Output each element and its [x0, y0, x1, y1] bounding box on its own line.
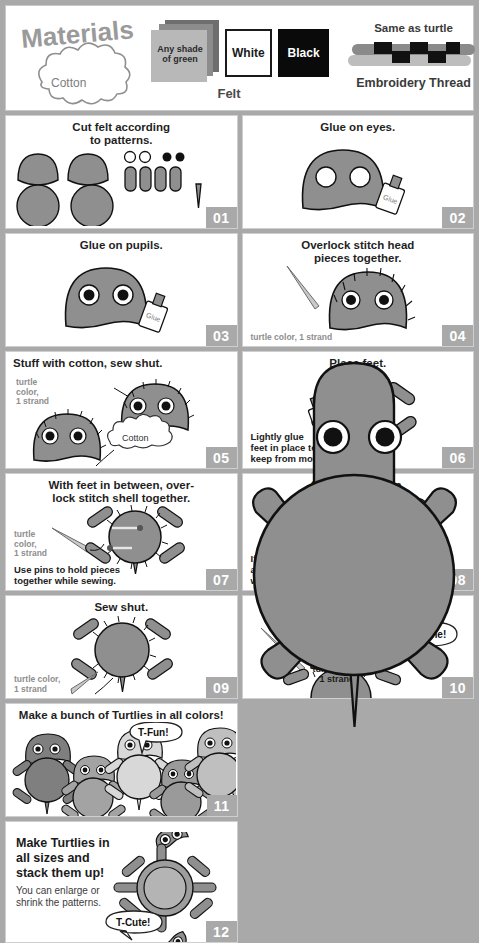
step-04-badge: 04 — [442, 325, 473, 346]
thread-group: Same as turtle Embroidery Thread — [346, 22, 479, 90]
step-panel-02: Glue on eyes. Glue 02 — [242, 115, 475, 229]
materials-title-text: Materials — [20, 14, 135, 54]
green-felt-swatches: Any shade of green — [149, 20, 221, 82]
thread-caption: Embroidery Thread — [346, 76, 479, 90]
step-01-title: Cut felt according to patterns. — [6, 116, 237, 147]
step-panel-04: Overlock stitch head pieces together. tu… — [242, 233, 475, 347]
step-01-pattern-pieces — [14, 146, 229, 226]
step-09-badge: 09 — [206, 677, 237, 698]
step-07-title: With feet in between, over- lock stitch … — [6, 474, 237, 505]
cotton-label: Cotton — [51, 76, 86, 90]
step-04-note: turtle color, 1 strand — [251, 333, 333, 343]
embroidery-thread-icon — [346, 38, 479, 74]
step-12-bubble-text: T-Cute! — [116, 917, 150, 928]
step-panel-12: Make Turtlies in all sizes and stack the… — [5, 821, 238, 943]
step-09-shell-art — [58, 616, 208, 696]
step-05-badge: 05 — [206, 447, 237, 468]
step-02-badge: 02 — [442, 207, 473, 228]
step-03-title: Glue on pupils. — [6, 234, 237, 252]
step-11-title: Make a bunch of Turtlies in all colors! — [6, 704, 237, 722]
step-05-title: Stuff with cotton, sew shut. — [6, 352, 237, 370]
step-01-badge: 01 — [206, 207, 237, 228]
cotton-cloud-icon — [39, 43, 130, 104]
step-09-note: turtle color, 1 strand — [14, 675, 60, 694]
felt-group: Any shade of green White Black Felt — [149, 20, 329, 101]
step-02-title: Glue on eyes. — [243, 116, 474, 134]
step-11-turtles-art: T-Fun! — [10, 722, 236, 816]
black-felt-swatch: Black — [278, 29, 329, 77]
step-panel-09: Sew shut. turtle color, 1 strand 09 — [5, 595, 238, 699]
thread-top-note: Same as turtle — [346, 22, 479, 34]
step-panel-01: Cut felt according to patterns. 01 — [5, 115, 238, 229]
white-felt-swatch: White — [225, 29, 272, 77]
step-12-badge: 12 — [206, 921, 237, 942]
green-felt-label: Any shade of green — [153, 44, 207, 64]
steps-row-2: Glue on pupils. Glue 03 Overlock stitch … — [5, 233, 474, 347]
step-05-heads-art: Cotton — [14, 372, 234, 468]
step-panel-07: With feet in between, over- lock stitch … — [5, 473, 238, 591]
materials-title-art: Materials Cotton — [20, 14, 150, 106]
steps-row-1: Cut felt according to patterns. 01 — [5, 115, 474, 229]
large-turtle-illustration — [234, 360, 475, 732]
step-panel-03: Glue on pupils. Glue 03 — [5, 233, 238, 347]
step-07-bottom-note: Use pins to hold pieces together while s… — [14, 564, 120, 586]
step-11-bubble-text: T-Fun! — [138, 727, 169, 738]
step-02-head-art: Glue — [295, 142, 445, 228]
step-05-cotton-label: Cotton — [122, 433, 149, 443]
step-07-badge: 07 — [206, 569, 237, 590]
step-04-title: Overlock stitch head pieces together. — [243, 234, 474, 265]
step-03-badge: 03 — [206, 325, 237, 346]
step-09-title: Sew shut. — [6, 596, 237, 614]
step-11-badge: 11 — [207, 795, 237, 816]
step-panel-05: Stuff with cotton, sew shut. turtle colo… — [5, 351, 238, 469]
step-04-stitching-art — [285, 262, 450, 342]
steps-row-7: Make Turtlies in all sizes and stack the… — [5, 821, 474, 943]
materials-panel: Materials Cotton Any shade of green Whit… — [5, 5, 474, 111]
felt-caption: Felt — [149, 86, 309, 101]
step-03-head-art: Glue — [58, 260, 208, 346]
step-panel-11: Make a bunch of Turtlies in all colors! — [5, 703, 238, 817]
speech-bubble-12: T-Cute! — [106, 911, 162, 940]
